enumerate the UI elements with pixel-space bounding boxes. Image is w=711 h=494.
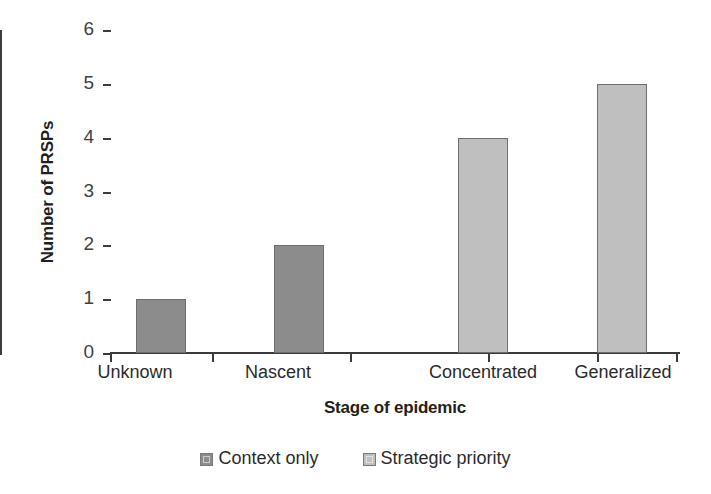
y-tick-label-3: 3 — [83, 181, 94, 200]
y-tick-5: 5 — [103, 84, 111, 86]
x-label-unknown: Unknown — [75, 361, 195, 383]
bar-unknown[interactable] — [136, 299, 186, 353]
y-axis-title: Number of PRSPs — [38, 82, 58, 302]
y-axis-line — [0, 30, 2, 355]
y-tick-label-5: 5 — [83, 73, 94, 92]
x-axis-title: Stage of epidemic — [110, 398, 680, 418]
legend-swatch-strategic-priority — [363, 453, 376, 466]
legend-item-context-only[interactable]: Context only — [200, 448, 318, 468]
legend-label-strategic-priority: Strategic priority — [381, 448, 511, 468]
y-tick-4: 4 — [103, 138, 111, 140]
bar-concentrated[interactable] — [458, 138, 508, 353]
y-tick-label-1: 1 — [83, 288, 94, 307]
y-tick-3: 3 — [103, 192, 111, 194]
legend-item-strategic-priority[interactable]: Strategic priority — [363, 448, 511, 468]
x-label-nascent: Nascent — [218, 361, 338, 383]
bar-chart-figure: Number of PRSPs 6 5 4 3 2 1 0 — [0, 0, 711, 494]
x-label-generalized: Generalized — [543, 361, 703, 383]
legend-swatch-context-only — [200, 453, 213, 466]
y-tick-label-4: 4 — [83, 127, 94, 146]
y-tick-label-6: 6 — [83, 19, 94, 38]
x-tick-2 — [350, 353, 352, 362]
y-tick-6: 6 — [103, 30, 111, 32]
y-tick-1: 1 — [103, 299, 111, 301]
bar-nascent[interactable] — [274, 245, 324, 353]
y-tick-2: 2 — [103, 245, 111, 247]
x-tick-1 — [212, 353, 214, 362]
y-tick-label-0: 0 — [83, 342, 94, 361]
chart-legend: Context only Strategic priority — [0, 448, 711, 468]
bar-generalized[interactable] — [597, 84, 647, 353]
x-label-concentrated: Concentrated — [403, 361, 563, 383]
plot-area: 6 5 4 3 2 1 0 — [110, 30, 678, 353]
y-tick-label-2: 2 — [83, 234, 94, 253]
legend-label-context-only: Context only — [218, 448, 318, 468]
